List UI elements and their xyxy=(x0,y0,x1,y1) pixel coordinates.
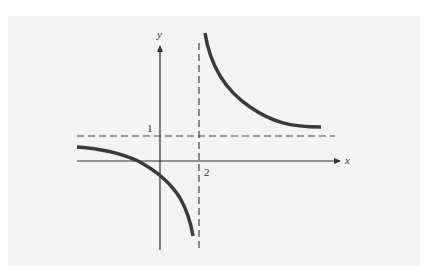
left-branch-curve xyxy=(77,147,193,236)
x-tick-label: 2 xyxy=(204,166,210,178)
y-axis-label: y xyxy=(156,28,162,40)
x-axis-label: x xyxy=(344,154,350,166)
y-tick-label: 1 xyxy=(147,122,153,134)
right-branch-curve xyxy=(205,33,321,127)
hyperbola-graph: y x 1 2 xyxy=(0,0,433,277)
